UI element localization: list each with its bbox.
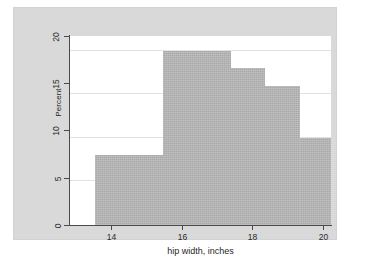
- x-axis-title: hip width, inches: [70, 246, 331, 256]
- y-axis-title: Percent: [54, 88, 63, 116]
- y-axis-tick: 5: [64, 178, 69, 179]
- histogram-bar: [300, 138, 331, 225]
- histogram-bar: [231, 68, 265, 225]
- plot-area: [70, 36, 331, 225]
- x-axis-tick-label: 18: [248, 233, 257, 242]
- x-axis-line: [69, 225, 332, 226]
- figure-panel: 0 5 10 15 20 14 16 18 20 Percent hip wid…: [14, 8, 336, 239]
- x-axis-tick: 18: [252, 225, 253, 230]
- y-axis-tick: 15: [64, 83, 69, 84]
- y-axis-tick: 20: [64, 36, 69, 37]
- y-axis-tick: 10: [64, 130, 69, 131]
- x-axis-tick: 14: [111, 225, 112, 230]
- x-axis-tick-label: 14: [107, 233, 116, 242]
- x-axis-tick-label: 16: [178, 233, 187, 242]
- y-axis-tick-label: 0: [54, 223, 63, 228]
- x-axis-tick-label: 20: [319, 233, 328, 242]
- histogram-screenshot: 0 5 10 15 20 14 16 18 20 Percent hip wid…: [0, 0, 367, 262]
- histogram-bar: [95, 155, 163, 225]
- y-axis-line: [69, 35, 70, 226]
- histogram-bar: [163, 51, 231, 225]
- y-axis-tick-label: 10: [52, 126, 61, 135]
- y-axis-tick-label: 5: [54, 176, 63, 181]
- x-axis-tick: 16: [182, 225, 183, 230]
- x-axis-tick: 20: [323, 225, 324, 230]
- histogram-bar: [265, 86, 299, 225]
- y-axis-tick: 0: [64, 225, 69, 226]
- y-axis-tick-label: 15: [52, 79, 61, 88]
- y-axis-tick-label: 20: [52, 32, 61, 41]
